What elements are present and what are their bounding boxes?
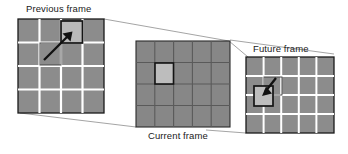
label-future-frame: Future frame [253,43,309,54]
label-current-frame: Current frame [148,130,208,141]
panel-future-frame[interactable] [246,57,334,133]
diagram-canvas: Previous frame Current frame Future fram… [0,0,348,154]
connector-current-to-future-top [229,41,248,57]
future-frame-highlight-cell[interactable] [254,86,273,106]
connector-previous-to-current-bottom [20,113,136,127]
panel-current-frame[interactable] [136,41,230,127]
connector-current-to-future-bottom [206,130,246,133]
current-frame-highlight-cell[interactable] [155,63,174,84]
connector-previous-to-current-top [104,19,229,41]
label-previous-frame: Previous frame [26,3,91,14]
panel-previous-frame[interactable] [18,19,104,113]
